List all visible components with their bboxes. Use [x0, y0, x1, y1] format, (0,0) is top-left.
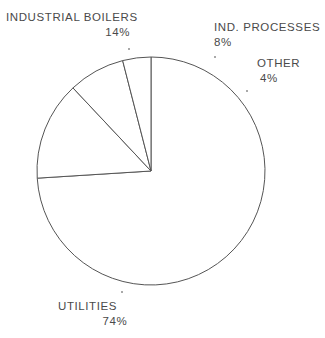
pie-label-ind-processes-name: IND. PROCESSES	[214, 20, 322, 35]
pie-label-other: OTHER 4%	[257, 56, 319, 86]
pie-chart-graphic	[0, 0, 325, 338]
pie-label-industrial-boilers-name: INDUSTRIAL BOILERS	[6, 10, 138, 25]
callout-dot-ind-processes	[214, 56, 216, 58]
pie-label-utilities: UTILITIES 74%	[58, 299, 158, 329]
callout-dot-utilities	[121, 291, 123, 293]
pie-label-ind-processes-value: 8%	[214, 35, 322, 50]
pie-label-industrial-boilers-value: 14%	[6, 25, 138, 40]
pie-label-utilities-name: UTILITIES	[58, 299, 158, 314]
pie-chart-figure: INDUSTRIAL BOILERS 14% IND. PROCESSES 8%…	[0, 0, 325, 338]
pie-label-other-name: OTHER	[257, 56, 319, 71]
callout-dot-industrial-boilers	[128, 48, 130, 50]
pie-label-ind-processes: IND. PROCESSES 8%	[214, 20, 322, 50]
pie-label-industrial-boilers: INDUSTRIAL BOILERS 14%	[6, 10, 138, 40]
pie-label-utilities-value: 74%	[58, 314, 158, 329]
pie-label-other-value: 4%	[257, 71, 319, 86]
callout-dot-other	[246, 90, 248, 92]
